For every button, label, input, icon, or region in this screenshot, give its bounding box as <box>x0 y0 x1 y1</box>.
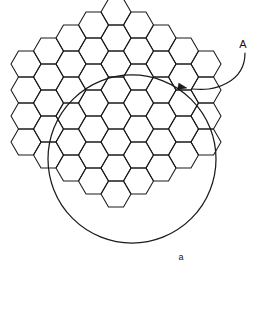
figure-container: A a <box>0 0 266 310</box>
diagram-background <box>0 0 266 310</box>
cell-label-a: a <box>178 252 183 262</box>
cluster-label-A: A <box>239 38 247 50</box>
hexagonal-cell-diagram: A a <box>0 0 266 310</box>
